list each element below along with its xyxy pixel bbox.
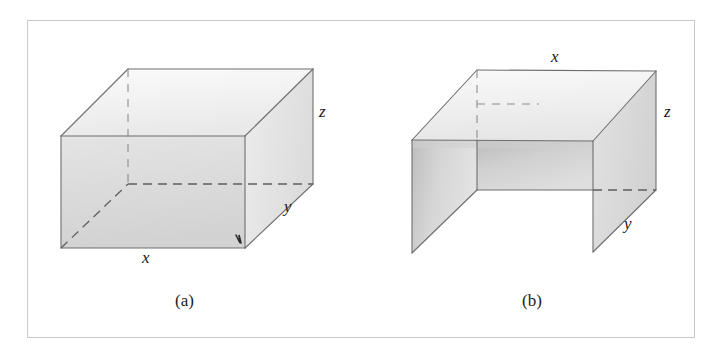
axis-label-x-a: x (142, 249, 150, 266)
axis-label-z-a: z (319, 103, 326, 120)
panel-caption-a: (a) (175, 292, 194, 309)
axis-label-y-a: y (284, 198, 292, 215)
axis-label-x-b: x (551, 48, 559, 65)
axis-label-z-b: z (664, 103, 671, 120)
panel-caption-b: (b) (522, 292, 542, 309)
box-face-front (61, 136, 245, 248)
box-diagram-a (28, 21, 362, 339)
figure-frame: x y z (a) (27, 20, 695, 338)
panel-a: x y z (a) (28, 21, 361, 337)
figure-page: x y z (a) (0, 0, 723, 357)
panel-b: x y z (b) (361, 21, 694, 337)
axis-label-y-b: y (624, 215, 632, 232)
